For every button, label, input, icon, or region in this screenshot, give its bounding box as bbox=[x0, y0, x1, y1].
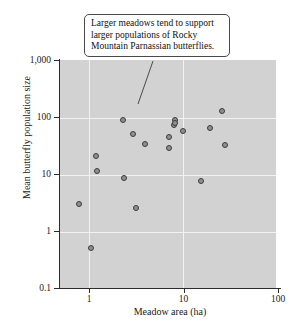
y-tick-label: 1,000 bbox=[30, 55, 51, 65]
x-tick-label: 1 bbox=[69, 294, 109, 305]
data-point bbox=[166, 145, 172, 151]
y-axis-title: Mean butterfly population size bbox=[21, 48, 32, 228]
data-point bbox=[166, 134, 172, 140]
gridline-vertical bbox=[89, 60, 90, 288]
y-tick-mark bbox=[54, 288, 60, 289]
data-point bbox=[76, 201, 82, 207]
gridline-vertical bbox=[183, 60, 184, 288]
data-point bbox=[222, 142, 228, 148]
data-point bbox=[121, 175, 127, 181]
x-axis-title: Meadow area (ha) bbox=[59, 306, 281, 318]
gridline-horizontal bbox=[59, 232, 276, 233]
x-tick-label: 10 bbox=[164, 294, 204, 305]
y-tick-label: 0.1 bbox=[39, 283, 51, 293]
data-point bbox=[207, 125, 213, 131]
data-point bbox=[142, 141, 148, 147]
callout-annotation: Larger meadows tend to support larger po… bbox=[84, 14, 230, 57]
data-point bbox=[180, 128, 186, 134]
y-tick-mark bbox=[54, 231, 60, 232]
data-point bbox=[130, 131, 136, 137]
data-point bbox=[133, 205, 139, 211]
callout-leader-line bbox=[120, 58, 165, 108]
x-tick-mark bbox=[278, 288, 279, 293]
y-tick-mark bbox=[54, 60, 60, 61]
data-point bbox=[94, 168, 100, 174]
data-point bbox=[88, 245, 94, 251]
data-point bbox=[93, 153, 99, 159]
gridline-horizontal bbox=[59, 118, 276, 119]
x-tick-label: 100 bbox=[258, 294, 298, 305]
gridline-horizontal bbox=[59, 175, 276, 176]
data-point bbox=[219, 108, 225, 114]
data-point bbox=[120, 117, 126, 123]
plot-area bbox=[59, 60, 276, 288]
y-tick-label: 100 bbox=[37, 112, 51, 122]
y-tick-label: 1 bbox=[46, 226, 51, 236]
x-tick-mark bbox=[89, 288, 90, 293]
data-point bbox=[172, 120, 178, 126]
y-tick-mark bbox=[54, 117, 60, 118]
x-axis-line bbox=[59, 288, 281, 289]
x-tick-mark bbox=[184, 288, 185, 293]
y-tick-label: 10 bbox=[42, 169, 52, 179]
data-point bbox=[198, 178, 204, 184]
scatter-plot-figure: 0.11101001,000 110100 Mean butterfly pop… bbox=[0, 0, 299, 329]
y-tick-mark bbox=[54, 174, 60, 175]
